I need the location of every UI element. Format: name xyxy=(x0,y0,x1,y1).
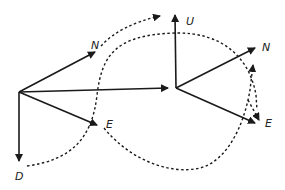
diagram-canvas: N E D U N E xyxy=(0,0,285,190)
left-north-axis xyxy=(19,52,95,92)
displacement-vector xyxy=(19,88,168,92)
right-north-axis xyxy=(176,48,255,88)
right-up-axis xyxy=(175,15,176,88)
curve-east-loop xyxy=(104,65,253,170)
left-north-label: N xyxy=(91,40,99,51)
curve-down-to-north xyxy=(27,33,257,166)
right-frame xyxy=(175,15,255,123)
frames-svg xyxy=(0,0,285,190)
rotation-curves xyxy=(27,16,259,170)
left-down-label: D xyxy=(15,171,23,182)
right-north-label: N xyxy=(262,42,270,53)
right-east-axis xyxy=(176,88,255,123)
left-east-axis xyxy=(19,92,97,125)
curve-north-to-up xyxy=(101,16,160,46)
left-frame xyxy=(19,52,97,161)
right-up-label: U xyxy=(186,16,194,27)
right-east-label: E xyxy=(265,118,272,129)
curve-down-to-east xyxy=(248,100,259,120)
left-east-label: E xyxy=(106,119,113,130)
